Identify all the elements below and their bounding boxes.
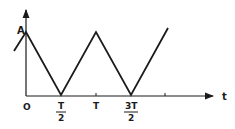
- tick-label-0: O: [23, 102, 31, 112]
- tick-label-T-over-2-num: T: [58, 101, 65, 111]
- x-label-t: t: [222, 91, 227, 102]
- tick-label-3T-over-2-den: 2: [128, 113, 134, 123]
- tick-label-T-over-2-den: 2: [58, 113, 64, 123]
- y-label-A: A: [17, 25, 25, 36]
- tick-label-T: T: [93, 101, 100, 111]
- tick-label-3T-over-2-num: 3T: [125, 101, 138, 111]
- triangle-wave-diagram: A t O T 2 T 3T 2: [0, 0, 235, 129]
- triangle-waveform: [14, 28, 168, 95]
